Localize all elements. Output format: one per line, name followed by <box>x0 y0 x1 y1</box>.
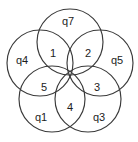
petal-label-5: 5 <box>41 81 47 93</box>
petal-label-4: 4 <box>67 101 73 113</box>
petal-label-group: 1 2 3 4 5 <box>41 47 100 113</box>
outer-label-q5: q5 <box>111 54 123 66</box>
rosette-canvas: 1 2 3 4 5 q7 q5 q3 q1 q4 <box>0 0 138 142</box>
outer-label-q4: q4 <box>16 54 28 66</box>
rosette-diagram: 1 2 3 4 5 q7 q5 q3 q1 q4 <box>0 0 138 142</box>
petal-label-2: 2 <box>85 47 91 59</box>
circle-bottom-left <box>19 66 85 132</box>
circle-group <box>7 9 133 132</box>
circle-bottom-right <box>55 66 121 132</box>
outer-label-q1: q1 <box>35 111 47 123</box>
outer-label-q7: q7 <box>62 15 74 27</box>
petal-label-1: 1 <box>50 47 56 59</box>
outer-label-q3: q3 <box>93 111 105 123</box>
petal-label-3: 3 <box>94 81 100 93</box>
